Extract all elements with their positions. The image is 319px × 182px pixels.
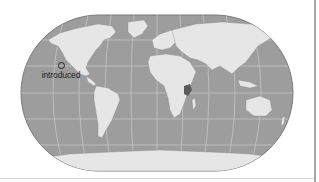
bottom-divider xyxy=(0,178,314,179)
right-border xyxy=(314,0,316,182)
introduced-circle-icon xyxy=(58,62,65,69)
world-map-svg xyxy=(0,0,314,182)
legend-introduced: introduced xyxy=(37,62,85,80)
world-map xyxy=(0,0,314,182)
introduced-label: introduced xyxy=(37,70,85,80)
